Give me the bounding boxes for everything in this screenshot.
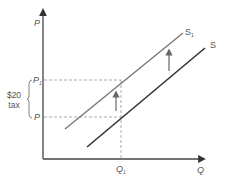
supply-tax-diagram: P Q P1 P Q1 S1 S $20 tax — [0, 0, 226, 185]
s1-curve-label: S1 — [185, 27, 194, 38]
q1-label: Q1 — [116, 164, 126, 175]
s-curve-label: S — [210, 40, 216, 50]
y-axis-label: P — [34, 18, 40, 28]
tax-label: tax — [8, 100, 20, 110]
x-axis-label: Q — [197, 165, 204, 175]
tax-amount-label: $20 — [7, 90, 21, 100]
tax-brace-icon — [27, 80, 32, 118]
p1-label: P1 — [33, 75, 42, 86]
p-label: P — [34, 112, 40, 122]
